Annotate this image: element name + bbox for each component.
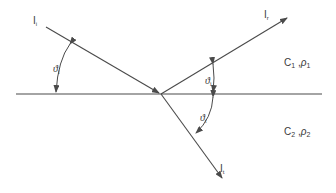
incident-ray-label: Ii [33,15,37,27]
reflected-ray-label: Ir [264,9,269,21]
incident-ray [46,27,159,93]
transmitted-ray-label: It [220,163,225,175]
diagram-canvas: Ii Ir It ϑi ϑi ϑt C1 ,ρ1 C2 ,ρ2 [0,0,336,193]
diagram-svg: Ii Ir It ϑi ϑi ϑt C1 ,ρ1 C2 ,ρ2 [0,0,336,193]
incident-angle-label: ϑi [53,63,60,75]
reflected-angle-label: ϑi [205,75,212,87]
reflected-angle-arc [213,64,214,92]
reflected-ray [161,18,287,94]
incident-angle-arc [56,44,70,92]
transmitted-ray [161,94,222,178]
upper-medium-label: C1 ,ρ1 [284,57,310,69]
transmitted-angle-label: ϑt [200,112,207,124]
lower-medium-label: C2 ,ρ2 [284,126,310,138]
